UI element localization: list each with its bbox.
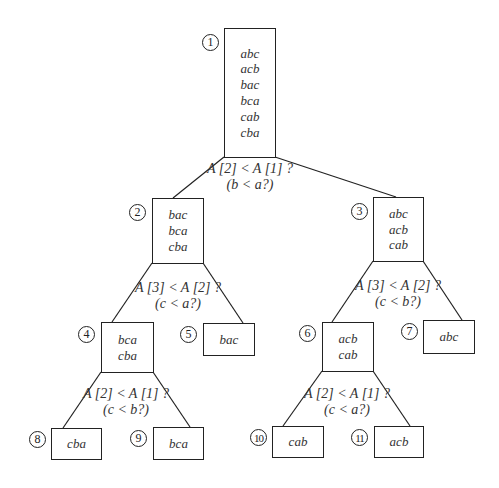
node-number-6: 6 <box>299 325 316 342</box>
perm: bca <box>169 223 188 239</box>
node-number-9: 9 <box>130 430 147 447</box>
node-6: acb cab <box>322 322 374 372</box>
perm: cba <box>118 348 137 364</box>
perm: acb <box>390 434 409 450</box>
perm: cab <box>289 434 308 450</box>
perm: acb <box>339 331 358 347</box>
perm: cba <box>241 125 260 141</box>
perm: cba <box>67 436 86 452</box>
node-number-4: 4 <box>78 326 95 343</box>
comparison: A [2] < A [1] ? <box>76 386 176 402</box>
perm: bac <box>220 332 239 348</box>
comparison-keys: (b < a?) <box>200 177 300 193</box>
question-node-3: A [3] < A [2] ? (c < b?) <box>348 278 448 310</box>
perm: abc <box>241 46 260 62</box>
perm: bca <box>241 93 260 109</box>
question-node-4: A [2] < A [1] ? (c < b?) <box>76 386 176 418</box>
comparison: A [2] < A [1] ? <box>297 386 397 402</box>
perm: acb <box>241 61 260 77</box>
comparison-keys: (c < b?) <box>76 402 176 418</box>
comparison-keys: (c < a?) <box>297 402 397 418</box>
comparison: A [3] < A [2] ? <box>348 278 448 294</box>
node-4: bca cba <box>101 322 154 373</box>
node-10: cab <box>272 426 324 458</box>
perm: bca <box>169 436 188 452</box>
perm: cab <box>339 347 358 363</box>
node-number-7: 7 <box>401 323 418 340</box>
node-2: bac bca cba <box>152 198 204 264</box>
perm: abc <box>440 329 459 345</box>
perm: bac <box>241 77 260 93</box>
perm: cab <box>241 109 260 125</box>
comparison-keys: (c < a?) <box>128 296 228 312</box>
node-number-1: 1 <box>202 34 219 51</box>
node-8: cba <box>51 428 102 460</box>
comparison-keys: (c < b?) <box>348 294 448 310</box>
node-number-5: 5 <box>180 326 197 343</box>
perm: acb <box>389 222 408 238</box>
node-1: abc acb bac bca cab cba <box>224 28 276 158</box>
node-5: bac <box>203 323 255 356</box>
question-node-2: A [3] < A [2] ? (c < a?) <box>128 280 228 312</box>
question-node-6: A [2] < A [1] ? (c < a?) <box>297 386 397 418</box>
question-node-1: A [2] < A [1] ? (b < a?) <box>200 161 300 193</box>
node-11: acb <box>374 426 424 458</box>
node-3: abc acb cab <box>373 197 424 262</box>
perm: bac <box>169 207 188 223</box>
node-number-3: 3 <box>351 203 368 220</box>
node-number-2: 2 <box>129 204 146 221</box>
node-7: abc <box>423 320 475 354</box>
perm: abc <box>389 206 408 222</box>
perm: bca <box>118 332 137 348</box>
node-number-8: 8 <box>29 431 46 448</box>
node-number-10: 10 <box>250 429 267 446</box>
comparison: A [3] < A [2] ? <box>128 280 228 296</box>
node-number-11: 11 <box>351 429 368 446</box>
perm: cab <box>389 237 408 253</box>
node-9: bca <box>153 427 204 460</box>
perm: cba <box>169 239 188 255</box>
comparison: A [2] < A [1] ? <box>200 161 300 177</box>
